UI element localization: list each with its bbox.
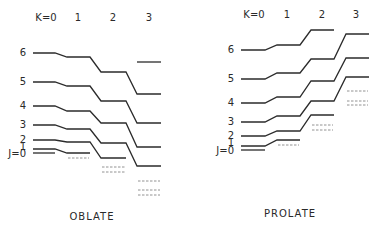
j-label: 5	[228, 73, 234, 84]
j-label: 6	[228, 44, 234, 55]
j-label: 3	[228, 116, 234, 127]
panel-caption: PROLATE	[264, 208, 316, 219]
level-j6	[33, 53, 161, 94]
k-label: 1	[75, 12, 81, 23]
k-label: K=0	[243, 9, 264, 20]
j-label: 5	[20, 76, 26, 87]
j-label: 3	[20, 119, 26, 130]
j-label: 4	[20, 100, 26, 111]
level-j6	[241, 30, 334, 50]
energy-level-diagram: K=0123654321J=0OBLATE K=0123654321J=0PRO…	[0, 0, 378, 229]
level-j5	[241, 34, 369, 79]
j-label: 4	[228, 97, 234, 108]
k-label: 3	[146, 12, 152, 23]
level-j5	[33, 82, 161, 123]
level-j3	[33, 125, 161, 166]
prolate-panel: K=0123654321J=0PROLATE	[215, 9, 369, 219]
k-label: 2	[319, 9, 325, 20]
k-label: 3	[353, 9, 359, 20]
k-label: 2	[110, 12, 116, 23]
j-label: J=0	[215, 145, 234, 156]
k-label: 1	[284, 9, 290, 20]
j-label: 6	[20, 47, 26, 58]
level-j3	[241, 77, 369, 122]
k-label: K=0	[35, 12, 56, 23]
j-label: J=0	[7, 148, 26, 159]
level-j4	[241, 58, 369, 103]
panel-caption: OBLATE	[69, 211, 114, 222]
level-j2	[241, 115, 334, 136]
level-j4	[33, 106, 161, 147]
oblate-panel: K=0123654321J=0OBLATE	[7, 12, 161, 222]
